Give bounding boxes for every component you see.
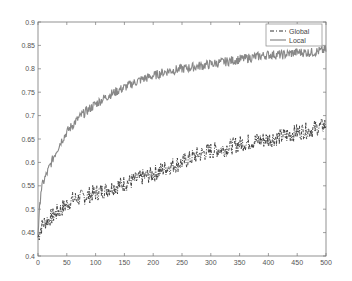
y-tick-label: 0.8 bbox=[25, 65, 35, 72]
x-tick-label: 200 bbox=[147, 259, 159, 266]
x-tick-label: 450 bbox=[291, 259, 303, 266]
y-tick-label: 0.85 bbox=[21, 42, 35, 49]
x-tick-label: 250 bbox=[176, 259, 188, 266]
legend-local-label: Local bbox=[289, 37, 306, 44]
y-tick-label: 0.7 bbox=[25, 112, 35, 119]
x-tick-label: 150 bbox=[119, 259, 131, 266]
y-tick-label: 0.65 bbox=[21, 136, 35, 143]
x-tick-label: 400 bbox=[263, 259, 275, 266]
x-tick-label: 100 bbox=[90, 259, 102, 266]
y-tick-label: 0.45 bbox=[21, 229, 35, 236]
y-tick-label: 0.4 bbox=[25, 253, 35, 260]
legend: Global Local bbox=[266, 24, 322, 46]
y-tick-label: 0.9 bbox=[25, 19, 35, 26]
x-tick-label: 500 bbox=[320, 259, 332, 266]
y-tick-label: 0.5 bbox=[25, 206, 35, 213]
line-chart: 0.40.450.50.550.60.650.70.750.80.850.9 0… bbox=[0, 0, 352, 281]
x-tick-label: 350 bbox=[234, 259, 246, 266]
x-tick-label: 300 bbox=[205, 259, 217, 266]
y-tick-label: 0.6 bbox=[25, 159, 35, 166]
legend-global-label: Global bbox=[289, 28, 310, 35]
y-tick-label: 0.55 bbox=[21, 182, 35, 189]
y-tick-label: 0.75 bbox=[21, 89, 35, 96]
x-tick-label: 0 bbox=[36, 259, 40, 266]
x-tick-label: 50 bbox=[63, 259, 71, 266]
